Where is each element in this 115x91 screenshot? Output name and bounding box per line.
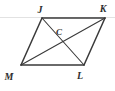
vertex-label-m: M (4, 71, 15, 82)
figure-background (0, 0, 115, 91)
point-label-c: C (56, 27, 63, 37)
parallelogram-diagram: J K L M C (0, 0, 115, 91)
vertex-label-j: J (37, 4, 44, 15)
geometry-figure: J K L M C (0, 0, 115, 91)
vertex-label-k: K (99, 3, 108, 14)
vertex-label-l: L (76, 70, 83, 81)
